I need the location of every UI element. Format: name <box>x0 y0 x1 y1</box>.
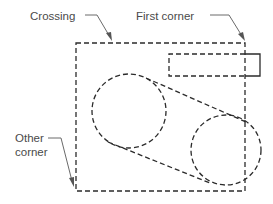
crossing-selection-diagram: Crossing First corner Other corner <box>0 0 273 204</box>
left-circle <box>92 74 166 148</box>
small-rectangle <box>169 54 260 76</box>
belt-line-top <box>146 78 246 122</box>
right-circle <box>191 115 261 185</box>
other-corner-leader <box>48 138 74 187</box>
arrow-icon <box>69 177 74 187</box>
other-corner-label-line1: Other <box>15 132 44 144</box>
crossing-window <box>76 43 245 191</box>
first-corner-leader <box>210 15 245 41</box>
arrow-icon <box>238 32 245 41</box>
belt-line-bottom <box>108 142 210 183</box>
other-corner-label-line2: corner <box>15 146 48 158</box>
crossing-leader <box>85 15 112 41</box>
crossing-label: Crossing <box>30 10 75 22</box>
first-corner-label: First corner <box>136 10 194 22</box>
arrow-icon <box>106 32 112 41</box>
